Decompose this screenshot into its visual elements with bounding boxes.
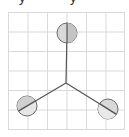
node-top — [57, 23, 77, 43]
diagram — [0, 0, 129, 137]
node-bottom-left — [17, 96, 37, 116]
node-bottom-right — [98, 99, 118, 119]
